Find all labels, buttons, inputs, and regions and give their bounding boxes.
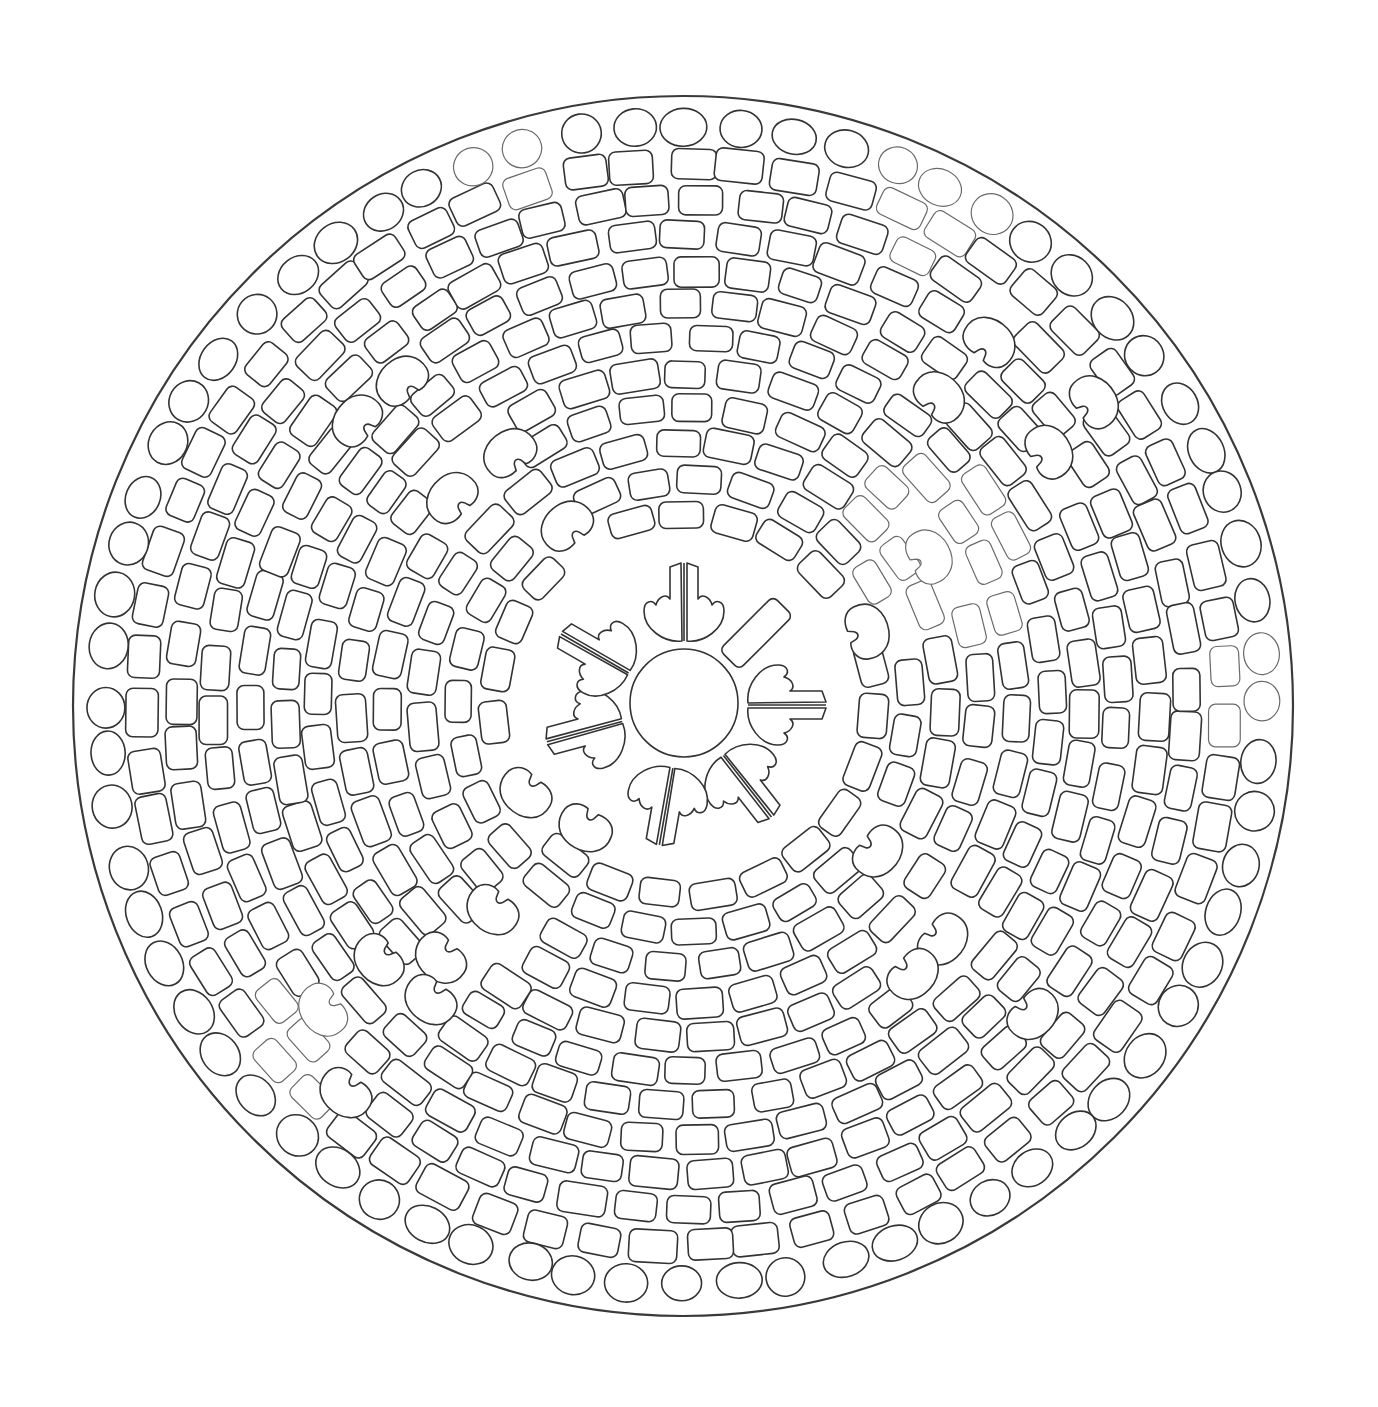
brick-tile: [674, 257, 719, 287]
brick-tile: [894, 658, 925, 706]
brick-tile: [304, 673, 332, 715]
brick-tile: [730, 1222, 780, 1258]
brick-tile: [614, 1190, 658, 1223]
brick-tile: [1066, 638, 1101, 688]
brick-tile: [686, 1021, 735, 1052]
brick-tile: [715, 1050, 763, 1082]
brick-tile: [608, 150, 654, 186]
brick-tile: [335, 693, 368, 743]
brick-tile: [1091, 605, 1126, 650]
brick-tile: [170, 780, 207, 830]
brick-tile: [406, 701, 439, 752]
brick-tile: [962, 704, 995, 748]
brick-tile: [126, 688, 159, 737]
brick-tile: [127, 635, 161, 679]
brick-tile: [608, 220, 658, 253]
pebble-tile: [87, 687, 125, 728]
brick-tile: [768, 157, 820, 196]
mandala-coloring-page: [0, 0, 1378, 1407]
brick-tile: [714, 147, 765, 185]
brick-tile: [1026, 615, 1061, 664]
brick-tile: [656, 430, 700, 457]
brick-tile: [301, 724, 335, 771]
brick-tile: [611, 1052, 661, 1087]
pebble-tile: [662, 1266, 702, 1301]
brick-tile: [624, 185, 669, 217]
brick-tile: [659, 220, 705, 250]
brick-tile: [1102, 707, 1130, 748]
brick-tile: [857, 693, 890, 739]
brick-tile: [638, 1089, 684, 1120]
brick-tile: [686, 1158, 734, 1190]
brick-tile: [751, 1078, 795, 1113]
brick-tile: [737, 190, 784, 224]
brick-tile: [1102, 656, 1133, 703]
brick-tile: [1201, 754, 1240, 802]
brick-tile: [659, 501, 704, 528]
brick-tile: [644, 951, 686, 982]
brick-tile: [406, 648, 441, 696]
center-circle: [630, 649, 738, 757]
brick-tile: [718, 1190, 761, 1223]
brick-tile: [724, 257, 772, 293]
brick-tile: [715, 222, 762, 257]
brick-tile: [665, 1057, 706, 1085]
brick-tile: [620, 1122, 663, 1152]
brick-tile: [373, 688, 401, 730]
brick-tile: [1131, 745, 1168, 796]
brick-tile: [166, 679, 197, 725]
brick-tile: [698, 947, 742, 980]
brick-tile: [478, 700, 511, 745]
pebble-tile: [1244, 681, 1280, 721]
brick-tile: [1208, 704, 1240, 747]
brick-tile: [628, 1229, 678, 1264]
brick-tile: [679, 186, 723, 215]
brick-tile: [209, 587, 243, 632]
brick-tile: [556, 1180, 609, 1218]
brick-tile: [692, 1089, 735, 1118]
brick-tile: [200, 645, 231, 691]
brick-tile: [638, 877, 681, 908]
brick-tile: [671, 148, 717, 180]
brick-tile: [621, 256, 669, 289]
brick-tile: [634, 1017, 681, 1052]
brick-tile: [623, 982, 671, 1015]
brick-tile: [618, 395, 665, 426]
brick-tile: [165, 620, 201, 667]
brick-tile: [676, 1125, 719, 1155]
brick-tile: [1168, 710, 1202, 761]
brick-tile: [237, 685, 264, 729]
brick-tile: [676, 465, 722, 495]
brick-tile: [205, 746, 236, 790]
brick-tile: [627, 468, 671, 501]
brick-tile: [1192, 801, 1233, 853]
brick-tile: [676, 987, 724, 1020]
brick-tile: [930, 688, 961, 736]
brick-tile: [715, 359, 762, 394]
brick-tile: [671, 918, 717, 945]
brick-tile: [272, 648, 301, 690]
brick-tile: [630, 323, 673, 354]
brick-tile: [687, 1227, 734, 1260]
brick-tile: [1132, 636, 1167, 685]
brick-tile: [1138, 692, 1171, 741]
brick-tile: [888, 713, 922, 758]
brick-tile: [562, 153, 609, 190]
brick-tile: [1002, 694, 1031, 742]
brick-tile: [666, 1195, 711, 1224]
brick-tile: [1032, 719, 1065, 766]
brick-tile: [1199, 596, 1240, 642]
brick-tile: [997, 641, 1030, 690]
brick-tile: [689, 325, 733, 352]
brick-tile: [1069, 690, 1099, 739]
brick-tile: [660, 289, 700, 318]
brick-tile: [628, 1155, 679, 1190]
brick-tile: [1209, 645, 1240, 687]
brick-tile: [583, 1081, 631, 1115]
brick-tile: [672, 394, 712, 422]
brick-tile: [711, 291, 758, 322]
brick-tile: [1038, 670, 1067, 714]
brick-tile: [165, 726, 198, 770]
brick-tile: [966, 653, 995, 702]
brick-tile: [338, 638, 371, 682]
